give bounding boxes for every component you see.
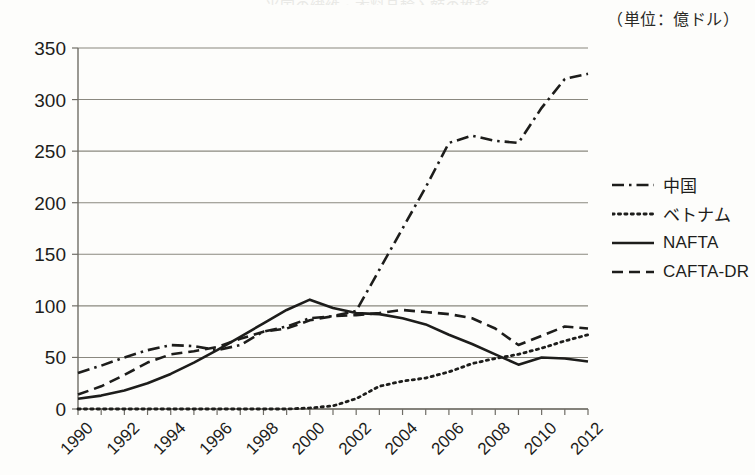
chart-legend: 中国ベトナムNAFTACAFTA-DR <box>612 170 755 286</box>
legend-swatch-dash-dot-icon <box>612 178 654 192</box>
y-tick-labels: 050100150200250300350 <box>34 38 66 420</box>
x-tick-label: 1998 <box>242 418 282 458</box>
x-tick-label: 1994 <box>149 418 189 458</box>
legend-label-nafta: NAFTA <box>663 233 718 253</box>
legend-label-cafta: CAFTA-DR <box>663 262 749 282</box>
x-tick-label: 2008 <box>474 418 514 458</box>
legend-label-vietnam: ベトナム <box>663 201 731 226</box>
legend-swatch-dotted-icon <box>612 207 654 221</box>
legend-label-china: 中国 <box>663 172 697 197</box>
chart-root: 米国の繊維・衣料品輸入額の推移 （単位：億ドル） 050100150200250… <box>0 0 755 475</box>
legend-item-cafta[interactable]: CAFTA-DR <box>612 257 755 286</box>
x-tick-label: 2010 <box>520 418 560 458</box>
legend-item-nafta[interactable]: NAFTA <box>612 228 755 257</box>
y-tick-label: 200 <box>34 193 66 214</box>
y-tick-label: 250 <box>34 141 66 162</box>
x-tick-label: 2000 <box>288 418 328 458</box>
series-line-cafta <box>78 310 588 395</box>
legend-item-china[interactable]: 中国 <box>612 170 755 199</box>
legend-swatch-solid-icon <box>612 236 654 250</box>
x-tick-label: 1996 <box>196 418 236 458</box>
legend-swatch-dashed-icon <box>612 265 654 279</box>
x-tick-label: 2012 <box>567 418 607 458</box>
y-tick-label: 350 <box>34 38 66 59</box>
x-tick-label: 2004 <box>381 418 421 458</box>
x-tick-label: 2002 <box>335 418 375 458</box>
x-tick-label: 1992 <box>103 418 143 458</box>
x-tick-labels: 1990199219941996199820002002200420062008… <box>57 418 607 458</box>
legend-item-vietnam[interactable]: ベトナム <box>612 199 755 228</box>
x-tick-label: 2006 <box>428 418 468 458</box>
y-tick-marks <box>72 48 78 409</box>
y-tick-label: 0 <box>55 399 66 420</box>
series-line-vietnam <box>78 335 588 409</box>
data-series-group <box>78 74 588 409</box>
series-line-china <box>78 74 588 373</box>
y-tick-label: 100 <box>34 296 66 317</box>
y-tick-label: 150 <box>34 244 66 265</box>
y-tick-label: 300 <box>34 90 66 111</box>
x-tick-label: 1990 <box>57 418 97 458</box>
y-tick-label: 50 <box>45 347 66 368</box>
